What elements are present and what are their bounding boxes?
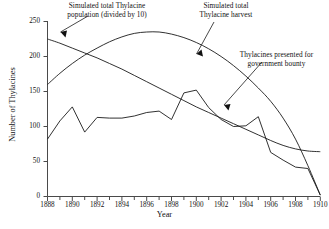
x-tick-label-1904: 1904	[233, 201, 259, 209]
y-axis-title: Number of Thylacines	[8, 40, 17, 170]
y-tick-label-200: 200	[18, 52, 40, 60]
bounty-arrowhead	[224, 104, 231, 111]
y-tick-label-100: 100	[18, 122, 40, 130]
harvest-leader-line	[197, 22, 215, 54]
x-tick-label-1900: 1900	[183, 201, 209, 209]
population-annotation: Simulated total Thylacine population (di…	[46, 2, 168, 19]
x-tick-label-1892: 1892	[84, 201, 110, 209]
x-tick-label-1894: 1894	[109, 201, 135, 209]
x-axis-title: Year	[0, 210, 329, 219]
bounty-annotation-line-2: government bounty	[224, 60, 329, 69]
y-tick-label-250: 250	[18, 17, 40, 25]
bounty-leader-line	[224, 62, 262, 105]
harvest-annotation: Simulated total Thylacine harvest	[180, 2, 272, 19]
x-tick-label-1906: 1906	[258, 201, 284, 209]
x-tick-label-1910: 1910	[307, 201, 329, 209]
x-tick-label-1898: 1898	[159, 201, 185, 209]
y-tick-label-50: 50	[18, 157, 40, 165]
x-tick-label-1888: 1888	[35, 201, 61, 209]
thylacine-chart-figure: Simulated total Thylacine population (di…	[0, 0, 329, 229]
chart-plot-area	[0, 0, 329, 229]
y-tick-label-150: 150	[18, 87, 40, 95]
x-tick-label-1908: 1908	[283, 201, 309, 209]
bounty-annotation: Thylacines presented for government boun…	[224, 51, 329, 68]
y-tick-label-0: 0	[18, 192, 40, 200]
x-tick-label-1902: 1902	[208, 201, 234, 209]
harvest-annotation-line-2: Thylacine harvest	[180, 11, 272, 20]
annotation-arrowheads	[61, 31, 231, 111]
series-line-bounty	[48, 90, 321, 195]
y-axis-ticks	[44, 22, 48, 197]
population-annotation-line-2: population (divided by 10)	[46, 11, 168, 20]
x-tick-label-1896: 1896	[134, 201, 160, 209]
x-tick-label-1890: 1890	[59, 201, 85, 209]
